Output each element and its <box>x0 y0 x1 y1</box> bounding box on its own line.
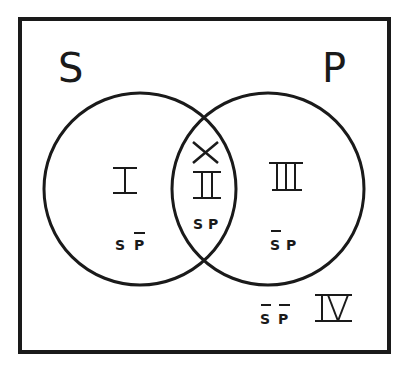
circle-p <box>172 93 364 285</box>
numeral-i <box>113 168 137 193</box>
svg-text:P: P <box>278 311 290 327</box>
svg-text:S: S <box>193 216 205 232</box>
svg-text:S: S <box>260 311 272 327</box>
venn-diagram: S P S P S <box>0 0 406 374</box>
term-region-iv: S P <box>260 305 290 327</box>
svg-text:S: S <box>115 237 127 253</box>
svg-text:S: S <box>270 237 282 253</box>
numeral-iii <box>269 163 303 190</box>
set-label-s: S <box>58 45 83 91</box>
x-marker-icon <box>193 142 218 163</box>
set-label-p: P <box>322 45 346 91</box>
svg-text:P: P <box>208 216 220 232</box>
svg-text:P: P <box>286 237 298 253</box>
svg-text:P: P <box>134 237 146 253</box>
numeral-ii <box>193 172 221 198</box>
numeral-iv <box>315 295 352 321</box>
term-region-ii: S P <box>193 216 220 232</box>
term-region-iii: S P <box>270 231 298 253</box>
circle-s <box>44 93 236 285</box>
term-region-i: S P <box>115 233 146 253</box>
